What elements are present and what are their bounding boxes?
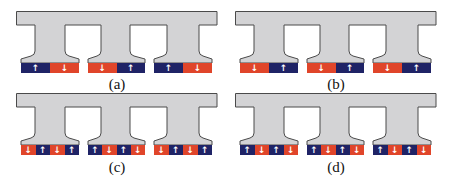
magnet: ↓ (255, 145, 270, 155)
magnet: ↑ (154, 63, 183, 73)
magnet: ↓ (154, 145, 169, 155)
arrow-down-icon: ↓ (384, 63, 392, 73)
arrow-down-icon: ↓ (194, 63, 202, 73)
tooth-magnets: ↓ ↑ (373, 63, 431, 73)
magnet: ↓ (307, 63, 336, 73)
magnet: ↓ (183, 63, 212, 73)
magnet: ↓ (50, 63, 79, 73)
magnet: ↑ (240, 145, 255, 155)
arrow-up-icon: ↑ (91, 145, 99, 155)
tooth-magnets: ↓ ↑ (240, 63, 298, 73)
arrow-up-icon: ↑ (243, 145, 251, 155)
arrow-up-icon: ↑ (310, 145, 318, 155)
magnet: ↑ (36, 145, 51, 155)
tooth-magnets: ↑ ↓ (21, 63, 79, 73)
arrow-up-icon: ↑ (272, 145, 280, 155)
magnet: ↑ (169, 145, 184, 155)
magnet: ↑ (88, 145, 102, 155)
tooth-magnets: ↓ ↑ (307, 63, 364, 73)
arrow-down-icon: ↓ (134, 145, 142, 155)
magnet: ↑ (117, 145, 131, 155)
arrow-down-icon: ↓ (325, 145, 333, 155)
magnet: ↑ (336, 63, 365, 73)
magnet: ↓ (88, 63, 117, 73)
magnet: ↑ (373, 145, 388, 155)
magnet: ↑ (307, 145, 321, 155)
arrow-up-icon: ↑ (201, 145, 209, 155)
arrow-down-icon: ↓ (353, 145, 361, 155)
magnet: ↑ (402, 145, 417, 155)
arrow-up-icon: ↑ (413, 63, 421, 73)
tooth-magnets: ↓ ↑ (88, 63, 145, 73)
arrow-down-icon: ↓ (317, 63, 325, 73)
magnet: ↓ (373, 63, 402, 73)
magnet: ↑ (336, 145, 350, 155)
arrow-up-icon: ↑ (280, 63, 288, 73)
arrow-up-icon: ↑ (39, 145, 47, 155)
magnet: ↓ (102, 145, 116, 155)
arrow-down-icon: ↓ (420, 145, 428, 155)
iron-core-outline (17, 12, 218, 64)
iron-core-outline (17, 94, 218, 146)
arrow-up-icon: ↑ (339, 145, 347, 155)
caption-a: (a) (97, 76, 137, 92)
arrow-down-icon: ↓ (61, 63, 69, 73)
arrow-down-icon: ↓ (106, 145, 114, 155)
caption-b: (b) (316, 76, 356, 92)
magnet: ↓ (183, 145, 198, 155)
tooth-magnets: ↑ ↓ (154, 63, 212, 73)
arrow-up-icon: ↑ (68, 145, 76, 155)
magnet: ↑ (65, 145, 80, 155)
magnet: ↑ (402, 63, 431, 73)
arrow-down-icon: ↓ (24, 145, 32, 155)
magnet: ↓ (388, 145, 403, 155)
magnet: ↑ (269, 63, 298, 73)
arrow-up-icon: ↑ (127, 63, 135, 73)
iron-core-outline (236, 12, 437, 64)
tooth-magnets: ↑ ↓ ↑ ↓ (373, 145, 431, 155)
magnet: ↑ (269, 145, 284, 155)
arrow-up-icon: ↑ (165, 63, 173, 73)
magnet: ↑ (117, 63, 146, 73)
magnet: ↓ (131, 145, 145, 155)
arrow-down-icon: ↓ (186, 145, 194, 155)
arrow-up-icon: ↑ (346, 63, 354, 73)
magnet: ↓ (321, 145, 335, 155)
arrow-down-icon: ↓ (157, 145, 165, 155)
tooth-magnets: ↓ ↑ ↓ ↑ (154, 145, 212, 155)
magnet: ↓ (417, 145, 432, 155)
arrow-down-icon: ↓ (391, 145, 399, 155)
arrow-down-icon: ↓ (287, 145, 295, 155)
magnet: ↓ (284, 145, 299, 155)
magnet: ↓ (21, 145, 36, 155)
arrow-up-icon: ↑ (120, 145, 128, 155)
arrow-up-icon: ↑ (376, 145, 384, 155)
arrow-down-icon: ↓ (98, 63, 106, 73)
magnet: ↓ (240, 63, 269, 73)
arrow-up-icon: ↑ (32, 63, 40, 73)
caption-c: (c) (97, 159, 137, 175)
arrow-down-icon: ↓ (258, 145, 266, 155)
magnet: ↓ (50, 145, 65, 155)
iron-core-outline (236, 94, 437, 146)
tooth-magnets: ↓ ↑ ↓ ↑ (21, 145, 79, 155)
arrow-down-icon: ↓ (53, 145, 61, 155)
tooth-magnets: ↑ ↓ ↑ ↓ (307, 145, 364, 155)
tooth-magnets: ↑ ↓ ↑ ↓ (88, 145, 145, 155)
tooth-magnets: ↑ ↓ ↑ ↓ (240, 145, 298, 155)
arrow-up-icon: ↑ (405, 145, 413, 155)
magnet: ↑ (21, 63, 50, 73)
arrow-up-icon: ↑ (172, 145, 180, 155)
magnet: ↑ (198, 145, 213, 155)
arrow-down-icon: ↓ (251, 63, 259, 73)
magnet: ↓ (350, 145, 364, 155)
caption-d: (d) (316, 159, 356, 175)
